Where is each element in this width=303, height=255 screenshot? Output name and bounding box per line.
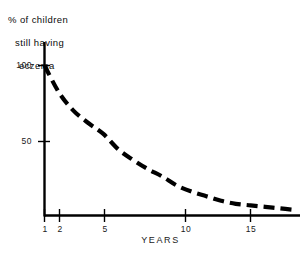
- x-tick-label-15: 15: [242, 224, 260, 234]
- x-tick-label-5: 5: [96, 224, 114, 234]
- x-tick-label-10: 10: [177, 224, 195, 234]
- eczema-decay-chart: % of children still having eczema 100 50…: [0, 0, 303, 255]
- plot-area: [0, 0, 303, 255]
- x-tick-label-2: 2: [51, 224, 69, 234]
- y-tick-label-100: 100: [6, 60, 32, 70]
- x-axis-title: YEARS: [0, 235, 303, 245]
- data-series-line: [45, 66, 295, 210]
- y-tick-label-50: 50: [6, 136, 32, 146]
